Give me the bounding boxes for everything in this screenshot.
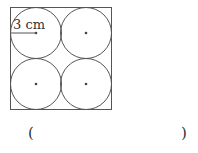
center-dot-bottom-left (35, 83, 38, 86)
answer-close-paren: ) (181, 124, 187, 142)
radius-label: 3 cm (13, 17, 45, 32)
center-dot-bottom-right (85, 83, 88, 86)
answer-blank[interactable] (45, 124, 175, 142)
center-dot-top-right (85, 32, 88, 35)
answer-open-paren: ( (28, 124, 34, 142)
